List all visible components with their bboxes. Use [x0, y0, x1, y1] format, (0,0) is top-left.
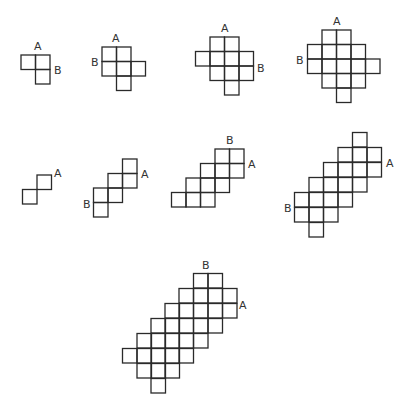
grid-cell — [165, 319, 180, 334]
grid-cell — [196, 52, 211, 67]
corner-label-b: B — [296, 54, 304, 67]
grid-cell — [338, 193, 353, 208]
grid-cell — [322, 74, 337, 89]
grid-cell — [179, 349, 194, 364]
corner-label-b: B — [91, 56, 99, 69]
grid-cell — [117, 47, 132, 62]
polyomino-figure-6: AB — [83, 159, 149, 217]
grid-cell — [223, 289, 238, 304]
grid-cell — [337, 30, 352, 45]
grid-cell — [225, 52, 240, 67]
grid-cell — [137, 364, 152, 379]
grid-cell — [123, 174, 138, 189]
grid-cell — [137, 349, 152, 364]
grid-cell — [117, 62, 132, 77]
grid-cell — [102, 47, 117, 62]
grid-cell — [123, 159, 138, 174]
grid-cell — [186, 193, 201, 208]
corner-label-b: B — [257, 62, 265, 75]
grid-cell — [194, 319, 209, 334]
grid-cell — [23, 190, 38, 205]
grid-cell — [179, 304, 194, 319]
grid-cell — [322, 45, 337, 60]
grid-cell — [309, 178, 324, 193]
corner-label-a: A — [54, 167, 62, 180]
polyomino-figure-8: AB — [284, 133, 394, 238]
grid-cell — [309, 223, 324, 238]
grid-cell — [131, 62, 146, 77]
grid-cell — [239, 66, 254, 81]
grid-cell — [151, 364, 166, 379]
grid-cell — [225, 66, 240, 81]
grid-cell — [194, 274, 209, 289]
grid-cell — [239, 52, 254, 67]
corner-label-b: B — [284, 202, 292, 215]
grid-cell — [225, 37, 240, 52]
grid-diagram-canvas: ABABABABAABABABAB — [0, 0, 416, 418]
grid-cell — [165, 334, 180, 349]
grid-cell — [351, 74, 366, 89]
grid-cell — [21, 55, 36, 70]
grid-cell — [165, 349, 180, 364]
grid-cell — [215, 178, 230, 193]
grid-cell — [230, 149, 245, 164]
grid-cell — [338, 178, 353, 193]
grid-cell — [194, 334, 209, 349]
grid-cell — [210, 52, 225, 67]
grid-cell — [108, 174, 123, 189]
grid-cell — [94, 203, 109, 218]
grid-cell — [201, 164, 216, 179]
grid-cell — [324, 178, 339, 193]
grid-cell — [208, 304, 223, 319]
grid-cell — [215, 164, 230, 179]
grid-cell — [108, 188, 123, 203]
corner-label-a: A — [34, 40, 42, 53]
grid-cell — [324, 163, 339, 178]
grid-cell — [36, 70, 51, 85]
grid-cell — [353, 163, 368, 178]
grid-cell — [295, 193, 310, 208]
grid-cell — [337, 45, 352, 60]
grid-cell — [123, 349, 138, 364]
polyomino-figure-4: AB — [296, 15, 380, 103]
grid-cell — [151, 379, 166, 394]
grid-cell — [309, 193, 324, 208]
grid-cell — [151, 349, 166, 364]
grid-cell — [215, 149, 230, 164]
grid-cell — [194, 289, 209, 304]
grid-cell — [337, 59, 352, 74]
grid-cell — [308, 59, 323, 74]
corner-label-b: B — [54, 64, 62, 77]
corner-label-a: A — [248, 158, 256, 171]
corner-label-b: B — [202, 259, 210, 272]
grid-cell — [37, 175, 52, 190]
grid-cell — [210, 37, 225, 52]
polyomino-figure-1: AB — [21, 40, 62, 84]
grid-cell — [322, 59, 337, 74]
grid-cell — [137, 334, 152, 349]
corner-label-a: A — [386, 157, 394, 170]
grid-cell — [210, 66, 225, 81]
grid-cell — [295, 208, 310, 223]
grid-cell — [367, 163, 382, 178]
corner-label-a: A — [333, 15, 341, 28]
corner-label-b: B — [226, 134, 234, 147]
polyomino-figure-9: AB — [123, 259, 248, 393]
polyomino-figure-5: A — [23, 167, 63, 204]
corner-label-a: A — [239, 299, 247, 312]
grid-cell — [366, 59, 381, 74]
grid-cell — [353, 178, 368, 193]
grid-cell — [338, 148, 353, 163]
grid-cell — [324, 193, 339, 208]
grid-cell — [208, 289, 223, 304]
grid-cell — [179, 289, 194, 304]
grid-cell — [179, 319, 194, 334]
grid-cell — [194, 304, 209, 319]
grid-cell — [367, 148, 382, 163]
grid-cell — [208, 274, 223, 289]
grid-cell — [353, 148, 368, 163]
grid-cell — [36, 55, 51, 70]
grid-cell — [337, 74, 352, 89]
grid-cell — [172, 193, 187, 208]
grid-cell — [230, 164, 245, 179]
